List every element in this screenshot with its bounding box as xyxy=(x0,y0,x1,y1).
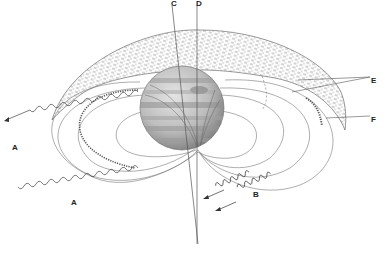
label-a-lower: A xyxy=(71,199,77,207)
label-f: F xyxy=(371,116,376,124)
spiral-emission-a-lower xyxy=(18,166,138,189)
label-c: C xyxy=(171,0,177,8)
wave-emission-b xyxy=(203,170,271,211)
label-b: B xyxy=(253,191,259,199)
label-e: E xyxy=(371,77,376,85)
inner-belt-right xyxy=(306,98,322,126)
planet xyxy=(140,66,230,150)
label-d: D xyxy=(196,0,202,8)
magnetosphere-diagram xyxy=(0,0,385,255)
label-a-upper: A xyxy=(12,144,18,152)
